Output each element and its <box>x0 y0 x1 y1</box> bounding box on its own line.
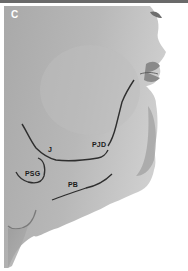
panel-letter: C <box>11 9 18 20</box>
cheek-highlight <box>40 45 140 135</box>
label-pb: PB <box>68 181 78 188</box>
face-illustration <box>0 0 188 271</box>
label-j: J <box>48 146 52 153</box>
label-psg: PSG <box>25 170 40 177</box>
label-pjd: PJD <box>92 141 106 148</box>
neck-shade <box>8 226 28 268</box>
